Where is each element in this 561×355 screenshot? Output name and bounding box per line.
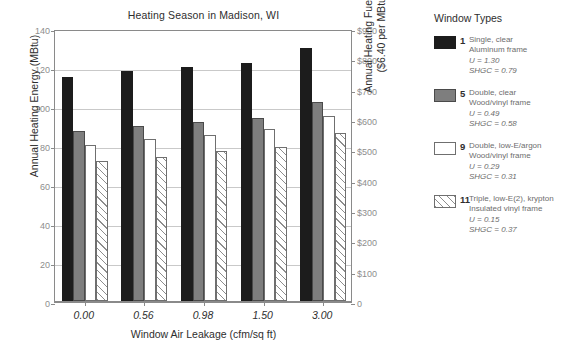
legend-item-shgc-value: SHGC = 0.79: [469, 66, 559, 76]
bar: [323, 116, 335, 301]
x-tick-label: 1.50: [252, 309, 272, 321]
legend-item-line1: Triple, low-E(2), krypton: [469, 194, 559, 204]
bar: [121, 71, 133, 301]
bar: [312, 102, 324, 301]
y-tick-label-right: 0: [357, 299, 362, 309]
y-tick-label-right: $200: [357, 238, 377, 248]
y-axis-label-right: Annual Heating Fuel Cost ($6.40 per MBtu…: [362, 0, 388, 118]
legend-item-line1: Double, low-E/argon: [469, 141, 559, 151]
x-tick-mark: [323, 301, 324, 306]
y-axis-label-left: Annual Heating Energy (MBtu): [28, 16, 40, 196]
y-tick-mark-right: [351, 304, 355, 305]
y-tick-mark-left: [51, 109, 55, 110]
legend-item-line2: Wood/vinyl frame: [469, 98, 559, 108]
x-tick-mark: [144, 301, 145, 306]
x-tick-label: 0.00: [74, 309, 94, 321]
legend-item-u-value: U = 0.15: [469, 215, 559, 225]
x-tick-label: 0.98: [193, 309, 213, 321]
bar: [156, 157, 168, 301]
legend-item: 1Single, clearAluminum frameU = 1.30SHGC…: [434, 35, 559, 79]
legend-item-text: Double, clearWood/vinyl frameU = 0.49SHG…: [469, 88, 559, 130]
y-tick-mark-right: [351, 274, 355, 275]
chart-figure: Heating Season in Madison, WI 0204060801…: [0, 0, 561, 355]
x-tick-label: 3.00: [312, 309, 332, 321]
legend-item-number: 11: [460, 194, 470, 205]
legend-swatch: [434, 89, 456, 102]
legend-item: 11Triple, low-E(2), kryptonInsulated vin…: [434, 194, 559, 238]
bar: [204, 135, 216, 301]
bar: [181, 67, 193, 301]
y-tick-mark-right: [351, 183, 355, 184]
y-tick-label-left: 20: [40, 260, 50, 270]
y-tick-label-right: $100: [357, 269, 377, 279]
chart-title: Heating Season in Madison, WI: [54, 9, 353, 21]
bar: [85, 145, 97, 301]
x-axis-label: Window Air Leakage (cfm/sq ft): [54, 328, 353, 340]
legend-swatch: [434, 142, 456, 155]
y-tick-mark-right: [351, 152, 355, 153]
y-tick-label-right: $600: [357, 117, 377, 127]
y-tick-label-left: 40: [40, 221, 50, 231]
y-tick-mark-left: [51, 31, 55, 32]
legend-item-text: Double, low-E/argonWood/vinyl frameU = 0…: [469, 141, 559, 183]
bar: [335, 133, 347, 301]
x-tick-mark: [264, 301, 265, 306]
y-tick-mark-right: [351, 61, 355, 62]
legend-item-shgc-value: SHGC = 0.58: [469, 119, 559, 129]
bar: [144, 139, 156, 301]
y-tick-mark-right: [351, 243, 355, 244]
y-tick-label-left: 0: [45, 299, 50, 309]
bar: [275, 147, 287, 301]
x-tick-mark: [204, 301, 205, 306]
y-tick-label-left: 80: [40, 143, 50, 153]
y-tick-mark-left: [51, 265, 55, 266]
legend-item-u-value: U = 0.49: [469, 109, 559, 119]
legend-item-u-value: U = 0.29: [469, 162, 559, 172]
legend-items: 1Single, clearAluminum frameU = 1.30SHGC…: [434, 35, 559, 238]
y-tick-mark-right: [351, 92, 355, 93]
bar: [252, 118, 264, 301]
bar: [62, 77, 74, 301]
legend-item-line2: Insulated vinyl frame: [469, 204, 559, 214]
x-tick-mark: [85, 301, 86, 306]
legend-swatch: [434, 195, 456, 208]
y-tick-mark-right: [351, 31, 355, 32]
bar: [300, 48, 312, 302]
legend: Window Types 1Single, clearAluminum fram…: [434, 12, 559, 247]
y-tick-label-left: 60: [40, 182, 50, 192]
legend-swatch: [434, 36, 456, 49]
legend-item: 5Double, clearWood/vinyl frameU = 0.49SH…: [434, 88, 559, 132]
legend-item-shgc-value: SHGC = 0.31: [469, 172, 559, 182]
plot-area: 0204060801001201400$100$200$300$400$500$…: [54, 30, 352, 303]
y-tick-mark-left: [51, 226, 55, 227]
legend-item-shgc-value: SHGC = 0.37: [469, 225, 559, 235]
bar: [73, 131, 85, 301]
legend-item-line1: Double, clear: [469, 88, 559, 98]
legend-item-number: 5: [460, 88, 465, 99]
y-tick-label-right: $400: [357, 178, 377, 188]
bar: [264, 129, 276, 301]
x-tick-label: 0.56: [133, 309, 153, 321]
legend-item-number: 9: [460, 141, 465, 152]
y-axis-label-right-line2: ($6.40 per MBtu): [375, 0, 388, 118]
legend-item-number: 1: [460, 35, 465, 46]
legend-item-line2: Wood/vinyl frame: [469, 151, 559, 161]
y-tick-mark-right: [351, 213, 355, 214]
legend-item-text: Triple, low-E(2), kryptonInsulated vinyl…: [469, 194, 559, 236]
legend-title: Window Types: [434, 12, 559, 24]
y-tick-label-right: $500: [357, 147, 377, 157]
bar: [193, 122, 205, 301]
y-axis-label-right-line1: Annual Heating Fuel Cost: [362, 0, 375, 118]
bar: [96, 161, 108, 301]
y-tick-mark-left: [51, 148, 55, 149]
legend-item-u-value: U = 1.30: [469, 56, 559, 66]
y-tick-mark-right: [351, 122, 355, 123]
y-tick-mark-left: [51, 187, 55, 188]
y-tick-mark-left: [51, 70, 55, 71]
y-tick-label-right: $300: [357, 208, 377, 218]
legend-item-line1: Single, clear: [469, 35, 559, 45]
legend-item: 9Double, low-E/argonWood/vinyl frameU = …: [434, 141, 559, 185]
y-tick-mark-left: [51, 304, 55, 305]
legend-item-line2: Aluminum frame: [469, 45, 559, 55]
bar: [216, 151, 228, 301]
